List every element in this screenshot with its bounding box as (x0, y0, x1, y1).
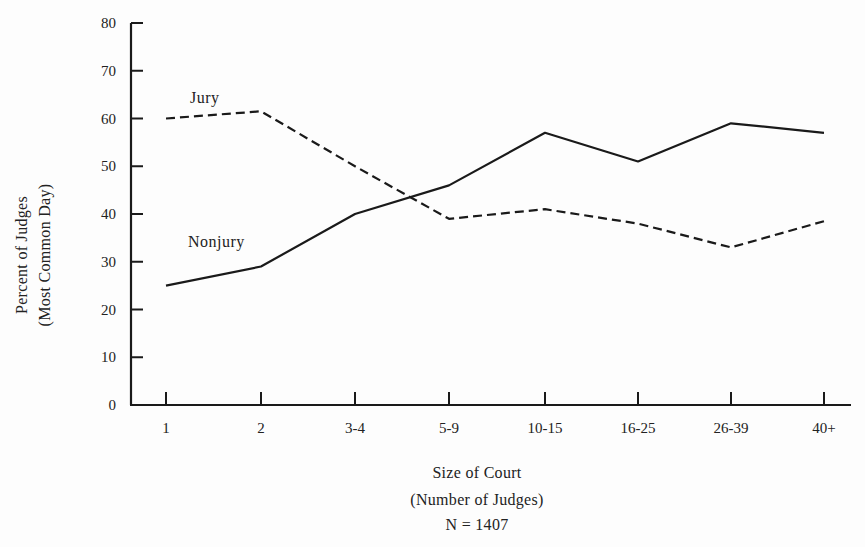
y-tick-label: 70 (101, 63, 116, 79)
y-axis-title: Percent of Judges (13, 196, 31, 314)
y-tick-label: 50 (101, 158, 116, 174)
x-tick-label: 3-4 (345, 420, 365, 436)
x-tick-label: 16-25 (621, 420, 656, 436)
series-line-jury (166, 111, 824, 247)
x-axis-subtitle: (Number of Judges) (410, 491, 543, 509)
x-tick-label: 10-15 (528, 420, 563, 436)
line-chart: 01020304050607080123-45-910-1516-2526-39… (0, 0, 865, 547)
axes: 01020304050607080123-45-910-1516-2526-39… (101, 15, 851, 436)
y-tick-label: 80 (101, 15, 116, 31)
series-label-nonjury: Nonjury (188, 233, 245, 251)
y-tick-label: 0 (109, 397, 117, 413)
x-tick-label: 26-39 (714, 420, 749, 436)
y-tick-label: 10 (101, 349, 116, 365)
y-tick-label: 20 (101, 302, 116, 318)
series-lines (166, 111, 824, 285)
y-axis-subtitle: (Most Common Day) (36, 184, 54, 327)
y-tick-label: 30 (101, 254, 116, 270)
sample-size-note: N = 1407 (446, 516, 509, 533)
x-tick-label: 5-9 (439, 420, 459, 436)
series-line-nonjury (166, 123, 824, 285)
x-tick-label: 1 (162, 420, 170, 436)
x-tick-label: 2 (257, 420, 265, 436)
y-tick-label: 60 (101, 111, 116, 127)
series-label-jury: Jury (190, 89, 220, 107)
x-axis-title: Size of Court (432, 464, 521, 481)
y-tick-label: 40 (101, 206, 116, 222)
x-tick-label: 40+ (812, 420, 835, 436)
